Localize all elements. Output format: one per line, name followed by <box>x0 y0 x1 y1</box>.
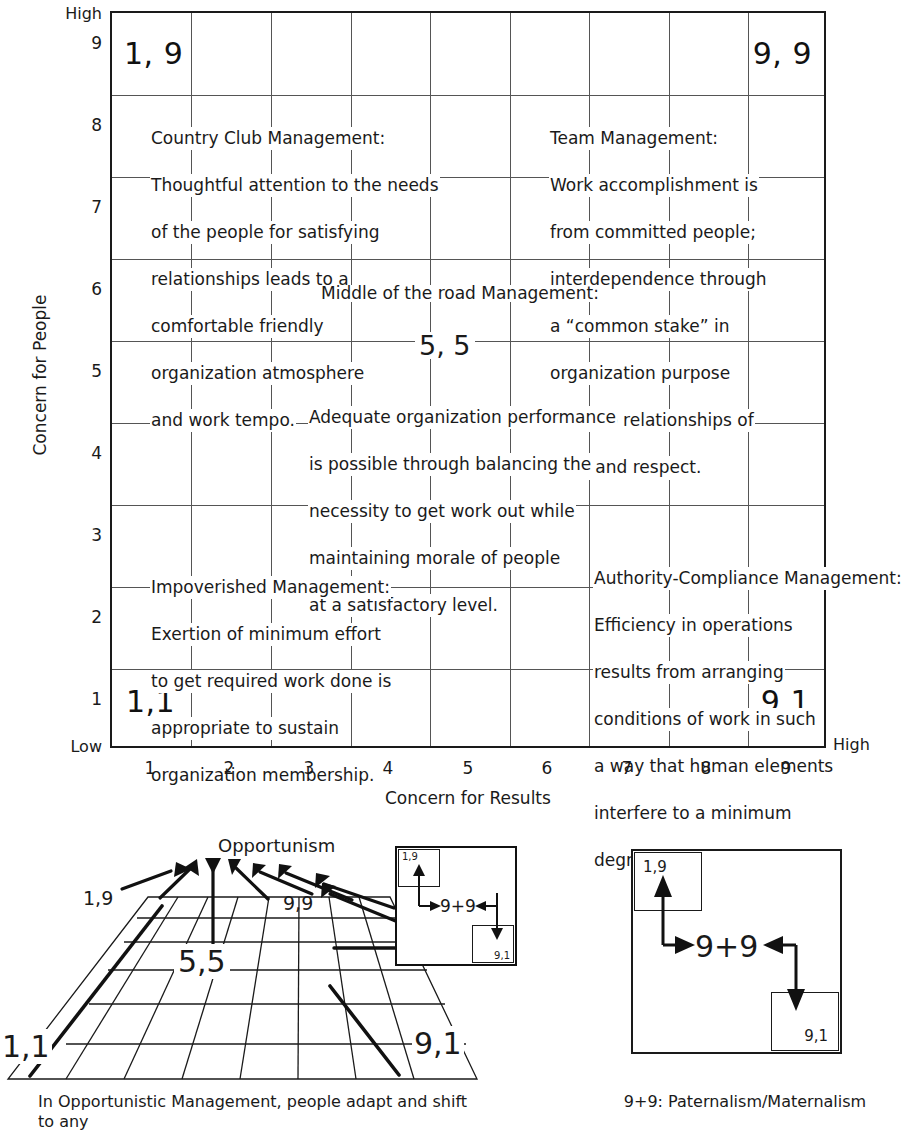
paternalism-caption: 9+9: Paternalism/Maternalism <box>614 1092 876 1112</box>
authority-line-1: Efficiency in operations <box>593 614 794 638</box>
y-tick-8: 8 <box>70 115 102 135</box>
team-line-1: Work accomplishment is <box>549 174 759 198</box>
x-tick-2: 2 <box>209 758 249 778</box>
opportunism-code-9-1: 9,1 <box>412 1026 464 1061</box>
annotation-impoverished: Impoverished Management: Exertion of min… <box>150 552 392 811</box>
x-tick-8: 8 <box>686 758 726 778</box>
y-tick-6: 6 <box>70 279 102 299</box>
y-axis-low-label: Low <box>40 737 102 756</box>
authority-line-5: interfere to a minimum <box>593 802 793 826</box>
grid-hline-1 <box>112 95 824 96</box>
x-tick-6: 6 <box>527 758 567 778</box>
y-tick-5: 5 <box>70 361 102 381</box>
middle-road-line-2: is possible through balancing the <box>308 453 592 477</box>
impoverished-line-4: organization membership. <box>150 764 375 788</box>
authority-title: Authority-Compliance Management: <box>593 567 903 591</box>
middle-road-line-3: necessity to get work out while <box>308 500 576 524</box>
paternalism-box: 1,9 9,1 9+9 <box>631 849 842 1054</box>
x-axis-high-label: High <box>833 735 870 754</box>
opportunism-code-5-5: 5,5 <box>174 944 230 979</box>
opportunism-diagram: Opportunism 1,9 9,9 5,5 1,1 9,1 1,9 9,1 … <box>0 826 520 1108</box>
corner-code-1-9: 1, 9 <box>124 39 183 69</box>
paternalism-arrows-svg <box>633 851 840 1052</box>
inset-arrows-svg <box>397 848 519 968</box>
opportunism-title: Opportunism <box>218 835 335 856</box>
country-club-title: Country Club Management: <box>150 127 386 151</box>
team-title: Team Management: <box>549 127 719 151</box>
x-tick-9: 9 <box>766 758 806 778</box>
middle-road-line-1: Adequate organization performance <box>308 406 617 430</box>
country-club-line-4: comfortable friendly <box>150 315 325 339</box>
team-line-4: a “common stake” in <box>549 315 730 339</box>
impoverished-line-3: appropriate to sustain <box>150 717 340 741</box>
opportunism-caption: In Opportunistic Management, people adap… <box>38 1092 468 1132</box>
y-tick-7: 7 <box>70 197 102 217</box>
x-axis-title: Concern for Results <box>385 788 551 808</box>
y-axis-high-label: High <box>40 4 102 23</box>
authority-line-3: conditions of work in such <box>593 708 817 732</box>
y-tick-2: 2 <box>70 607 102 627</box>
country-club-line-1: Thoughtful attention to the needs <box>150 174 440 198</box>
opportunism-inset-box: 1,9 9,1 9+9 <box>395 846 517 966</box>
y-tick-4: 4 <box>70 443 102 463</box>
impoverished-line-1: Exertion of minimum effort <box>150 623 382 647</box>
x-tick-4: 4 <box>368 758 408 778</box>
x-tick-5: 5 <box>448 758 488 778</box>
country-club-line-2: of the people for satisfying <box>150 221 380 245</box>
authority-line-2: results from arranging <box>593 661 785 685</box>
middle-road-title: Middle of the road Management: <box>318 285 602 302</box>
y-tick-1: 1 <box>70 689 102 709</box>
y-tick-9: 9 <box>70 33 102 53</box>
y-axis-title: Concern for People <box>30 265 50 485</box>
x-tick-1: 1 <box>130 758 170 778</box>
opportunism-code-1-1: 1,1 <box>0 1029 52 1064</box>
middle-road-code: 5, 5 <box>415 332 475 359</box>
opportunism-code-1-9: 1,9 <box>83 887 113 909</box>
x-tick-3: 3 <box>289 758 329 778</box>
x-tick-7: 7 <box>607 758 647 778</box>
managerial-grid-chart: 1, 9 9, 9 1,1 9,1 Country Club Managemen… <box>110 11 826 748</box>
team-line-2: from committed people; <box>549 221 757 245</box>
impoverished-line-2: to get required work done is <box>150 670 392 694</box>
country-club-line-6: and work tempo. <box>150 409 296 433</box>
opportunism-code-9-9: 9,9 <box>283 892 313 914</box>
impoverished-title: Impoverished Management: <box>150 576 391 600</box>
y-tick-3: 3 <box>70 525 102 545</box>
corner-code-9-9: 9, 9 <box>753 39 812 69</box>
annotation-authority-compliance: Authority-Compliance Management: Efficie… <box>593 543 903 896</box>
